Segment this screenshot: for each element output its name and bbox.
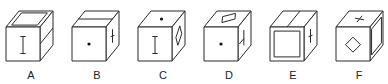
cube-front-face	[270, 27, 304, 61]
cube-label-b: B	[87, 68, 107, 82]
cube-b	[72, 11, 119, 61]
cube-f	[336, 11, 383, 61]
cube-d	[204, 11, 251, 61]
cube-c	[138, 11, 185, 61]
front-dot-icon	[219, 42, 222, 45]
cube-label-a: A	[21, 68, 41, 82]
cubes-canvas	[0, 0, 388, 68]
cube-options-figure: A B C D E F	[0, 0, 388, 84]
cube-label-c: C	[153, 68, 173, 82]
front-dot-icon	[87, 42, 90, 45]
cube-label-f: F	[349, 68, 369, 82]
cube-a	[6, 11, 53, 61]
cube-front-face	[336, 27, 370, 61]
top-dot-icon	[160, 17, 163, 20]
cube-label-d: D	[219, 68, 239, 82]
cube-e	[270, 11, 317, 61]
cube-label-e: E	[283, 68, 303, 82]
